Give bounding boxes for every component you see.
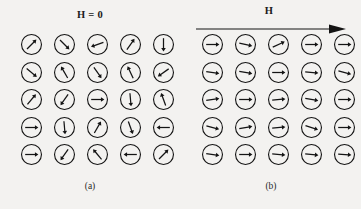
spin-site bbox=[115, 86, 145, 114]
spin-arrow-icon bbox=[333, 61, 356, 84]
spin-site bbox=[263, 86, 293, 114]
spin-arrow-icon bbox=[152, 33, 175, 56]
spin-arrow-icon bbox=[152, 143, 175, 166]
spin-site bbox=[115, 31, 145, 59]
spin-site bbox=[296, 86, 326, 114]
spin-site bbox=[230, 141, 260, 169]
spin-arrow-icon bbox=[234, 116, 257, 139]
spin-arrow-icon bbox=[20, 33, 43, 56]
spin-site bbox=[82, 114, 112, 142]
spin-arrow-icon bbox=[152, 116, 175, 139]
spin-arrow-icon bbox=[333, 88, 356, 111]
spin-arrow-icon bbox=[86, 61, 109, 84]
spin-arrow-icon bbox=[333, 143, 356, 166]
spin-arrow-icon bbox=[20, 61, 43, 84]
spin-arrow-icon bbox=[86, 33, 109, 56]
applied-field-arrow-icon bbox=[196, 20, 346, 30]
spin-site bbox=[296, 59, 326, 87]
spin-arrow-icon bbox=[53, 61, 76, 84]
spin-arrow-icon bbox=[201, 88, 224, 111]
spin-site bbox=[197, 59, 227, 87]
spin-arrow-icon bbox=[20, 116, 43, 139]
spin-arrow-icon bbox=[267, 88, 290, 111]
spin-arrow-icon bbox=[119, 61, 142, 84]
spin-site bbox=[230, 114, 260, 142]
spin-arrow-icon bbox=[201, 33, 224, 56]
spin-arrow-icon bbox=[119, 116, 142, 139]
spin-arrow-icon bbox=[201, 61, 224, 84]
spin-arrow-icon bbox=[53, 33, 76, 56]
spin-arrow-icon bbox=[201, 143, 224, 166]
spin-arrow-icon bbox=[86, 143, 109, 166]
spin-site bbox=[16, 114, 46, 142]
spin-arrow-icon bbox=[53, 143, 76, 166]
spin-site bbox=[263, 114, 293, 142]
spin-arrow-icon bbox=[53, 88, 76, 111]
spin-site bbox=[82, 86, 112, 114]
spin-arrow-icon bbox=[267, 116, 290, 139]
spin-arrow-icon bbox=[152, 88, 175, 111]
spin-site bbox=[148, 86, 178, 114]
spin-site bbox=[230, 86, 260, 114]
spin-site bbox=[49, 141, 79, 169]
spin-arrow-icon bbox=[333, 33, 356, 56]
spin-arrow-icon bbox=[201, 116, 224, 139]
spin-site bbox=[49, 86, 79, 114]
spin-arrow-icon bbox=[234, 61, 257, 84]
panel-applied-field: H (b) bbox=[181, 0, 361, 209]
spin-grid-b bbox=[197, 31, 347, 169]
spin-arrow-icon bbox=[119, 88, 142, 111]
spin-site bbox=[148, 141, 178, 169]
field-label-a: H = 0 bbox=[0, 9, 180, 20]
spin-arrow-icon bbox=[20, 88, 43, 111]
spin-site bbox=[197, 86, 227, 114]
spin-arrow-icon bbox=[119, 33, 142, 56]
spin-arrow-icon bbox=[300, 88, 323, 111]
spin-site bbox=[329, 86, 359, 114]
spin-site bbox=[263, 31, 293, 59]
spin-site bbox=[49, 59, 79, 87]
spin-arrow-icon bbox=[53, 116, 76, 139]
spin-site bbox=[329, 141, 359, 169]
spin-site bbox=[197, 114, 227, 142]
spin-site bbox=[82, 31, 112, 59]
spin-arrow-icon bbox=[234, 33, 257, 56]
spin-site bbox=[296, 31, 326, 59]
spin-arrow-icon bbox=[333, 116, 356, 139]
spin-site bbox=[16, 59, 46, 87]
spin-site bbox=[230, 59, 260, 87]
spin-site bbox=[263, 59, 293, 87]
spin-arrow-icon bbox=[152, 61, 175, 84]
spin-site bbox=[329, 31, 359, 59]
spin-arrow-icon bbox=[119, 143, 142, 166]
panel-caption-b: (b) bbox=[181, 181, 361, 191]
spin-site bbox=[197, 31, 227, 59]
spin-site bbox=[16, 31, 46, 59]
spin-arrow-icon bbox=[300, 61, 323, 84]
spin-site bbox=[148, 114, 178, 142]
spin-site bbox=[263, 141, 293, 169]
spin-site bbox=[115, 59, 145, 87]
spin-arrow-icon bbox=[300, 116, 323, 139]
spin-site bbox=[115, 141, 145, 169]
spin-site bbox=[329, 59, 359, 87]
spin-site bbox=[82, 141, 112, 169]
magnetization-domain-figure: H = 0 (a) H (b) bbox=[0, 0, 361, 209]
spin-site bbox=[148, 31, 178, 59]
spin-arrow-icon bbox=[86, 116, 109, 139]
panel-caption-a: (a) bbox=[0, 181, 180, 191]
spin-site bbox=[82, 59, 112, 87]
spin-site bbox=[296, 114, 326, 142]
spin-arrow-icon bbox=[267, 143, 290, 166]
spin-site bbox=[197, 141, 227, 169]
spin-site bbox=[115, 114, 145, 142]
spin-arrow-icon bbox=[300, 143, 323, 166]
spin-arrow-icon bbox=[267, 61, 290, 84]
spin-site bbox=[49, 114, 79, 142]
spin-site bbox=[230, 31, 260, 59]
spin-site bbox=[296, 141, 326, 169]
panel-zero-field: H = 0 (a) bbox=[0, 0, 180, 209]
spin-arrow-icon bbox=[234, 143, 257, 166]
spin-arrow-icon bbox=[300, 33, 323, 56]
spin-arrow-icon bbox=[20, 143, 43, 166]
